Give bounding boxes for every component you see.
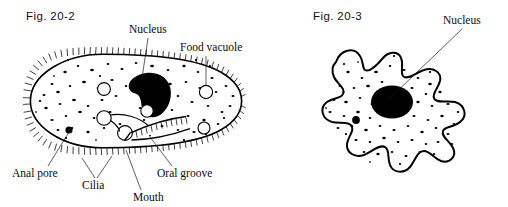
contractile-vacuole-1 (97, 111, 111, 125)
label-anal-pore: Anal pore (12, 167, 58, 180)
label-cilia: Cilia (82, 179, 104, 191)
label-oral-groove: Oral groove (157, 167, 212, 180)
label-nucleus-right: Nucleus (443, 14, 481, 26)
food-vacuole-4 (141, 105, 153, 117)
food-vacuole-1 (98, 83, 111, 96)
label-mouth: Mouth (133, 191, 164, 203)
food-vacuole-3 (198, 122, 210, 134)
figure-caption-20-2: Fig. 20-2 (26, 10, 75, 22)
label-nucleus-left: Nucleus (129, 23, 167, 35)
amoeba-nucleus (371, 86, 413, 119)
paramecium-cell-membrane (30, 54, 241, 148)
label-food-vacuole: Food vacuole (180, 41, 242, 53)
amoeba-contractile-vacuole (352, 116, 360, 124)
food-vacuole-2 (199, 85, 212, 98)
diagram-canvas: Fig. 20-2 (0, 0, 508, 207)
biology-figure-panel: Fig. 20-2 (0, 0, 508, 207)
figure-caption-20-3: Fig. 20-3 (313, 10, 362, 22)
